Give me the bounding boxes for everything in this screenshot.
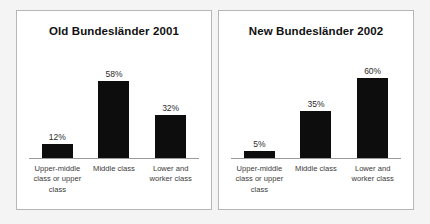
- chart-panel-new-bundeslaender: New Bundesländer 2002 5% 35% 60% Upper-m…: [218, 10, 414, 210]
- category-label: Upper-middle class or upper class: [232, 164, 286, 195]
- bar-value-label: 5%: [253, 140, 265, 149]
- bar-group: 5% 35% 60%: [231, 47, 401, 158]
- bar-value-label: 12%: [49, 133, 66, 142]
- bar-rect[interactable]: [42, 144, 73, 158]
- axis-baseline: [231, 158, 401, 159]
- bar-group: 12% 58% 32%: [29, 47, 199, 158]
- bar-value-label: 58%: [105, 70, 122, 79]
- plot-area: 12% 58% 32%: [29, 47, 199, 159]
- category-axis: Upper-middle class or upper class Middle…: [29, 164, 199, 195]
- axis-baseline: [29, 158, 199, 159]
- bar-value-label: 60%: [364, 67, 381, 76]
- bar-value-label: 32%: [162, 104, 179, 113]
- bar-item[interactable]: 35%: [290, 47, 342, 158]
- bar-value-label: 35%: [307, 100, 324, 109]
- bar-rect[interactable]: [155, 115, 186, 158]
- panel-title: New Bundesländer 2002: [249, 25, 383, 37]
- category-label: Lower and worker class: [144, 164, 198, 195]
- category-label: Upper-middle class or upper class: [30, 164, 84, 195]
- category-label: Middle class: [289, 164, 343, 195]
- bar-rect[interactable]: [244, 151, 275, 158]
- bar-rect[interactable]: [357, 78, 388, 158]
- panel-title: Old Bundesländer 2001: [49, 25, 179, 37]
- bar-rect[interactable]: [300, 111, 331, 158]
- bar-item[interactable]: 32%: [145, 47, 197, 158]
- bar-item[interactable]: 12%: [31, 47, 83, 158]
- chart-panel-old-bundeslaender: Old Bundesländer 2001 12% 58% 32% Upper-…: [16, 10, 212, 210]
- plot-area: 5% 35% 60%: [231, 47, 401, 159]
- bar-item[interactable]: 60%: [347, 47, 399, 158]
- bar-item[interactable]: 5%: [233, 47, 285, 158]
- chart-figure: Old Bundesländer 2001 12% 58% 32% Upper-…: [0, 0, 430, 224]
- bar-item[interactable]: 58%: [88, 47, 140, 158]
- category-label: Lower and worker class: [346, 164, 400, 195]
- category-label: Middle class: [87, 164, 141, 195]
- bar-rect[interactable]: [98, 81, 129, 158]
- category-axis: Upper-middle class or upper class Middle…: [231, 164, 401, 195]
